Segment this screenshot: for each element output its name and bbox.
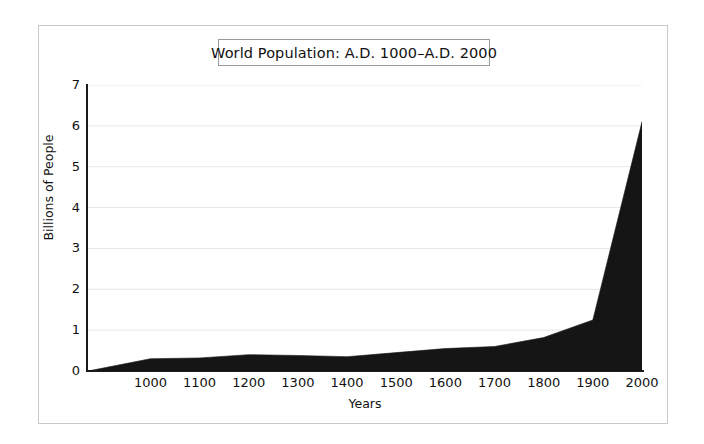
plot-area [88, 85, 642, 371]
chart-title-box: World Population: A.D. 1000–A.D. 2000 [218, 39, 490, 66]
y-tick-label: 0 [58, 364, 80, 377]
y-tick-label: 1 [58, 323, 80, 336]
y-tick-label: 7 [58, 78, 80, 91]
population-area-chart-figure: World Population: A.D. 1000–A.D. 2000 01… [0, 0, 704, 444]
population-area-path [88, 122, 642, 371]
x-axis-title: Years [88, 396, 642, 411]
y-tick-label: 2 [58, 282, 80, 295]
y-tick-label: 5 [58, 160, 80, 173]
y-tick-label: 4 [58, 201, 80, 214]
y-axis-title: Billions of People [41, 123, 56, 253]
area-series-svg [88, 85, 642, 371]
y-tick-label: 3 [58, 241, 80, 254]
x-tick-label: 2000 [612, 376, 672, 389]
y-tick-label: 6 [58, 119, 80, 132]
page-title: World Population: A.D. 1000–A.D. 2000 [211, 45, 497, 61]
gridlines-group [88, 85, 642, 330]
